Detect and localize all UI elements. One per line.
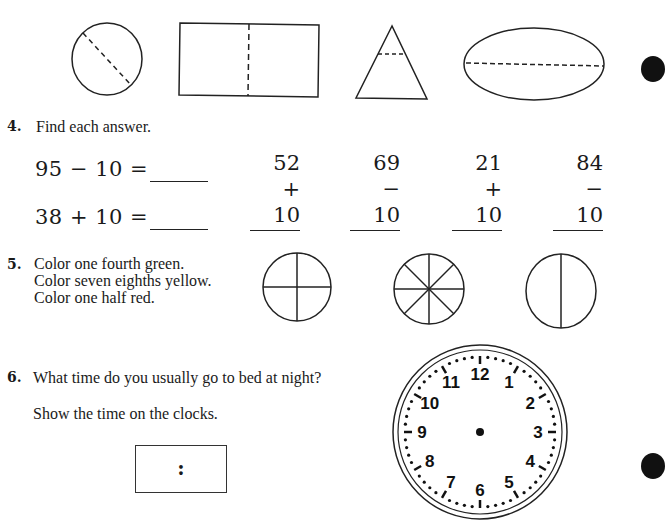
q4-v1-top: 52 — [250, 150, 300, 176]
q4-expr-2: 38 + 10 = — [35, 205, 148, 229]
q4-v2-bottom: − 10 — [350, 176, 400, 231]
clock-number-8: 8 — [425, 452, 434, 471]
q4-vertical-problem-3: 21 + 10 — [452, 150, 502, 231]
q4-expr-1: 95 − 10 = — [35, 157, 148, 181]
clock-center-dot — [476, 428, 484, 436]
triangle-shape — [356, 26, 427, 99]
q4-prompt: Find each answer. — [36, 118, 151, 135]
digital-clock-box[interactable]: : — [135, 445, 227, 493]
circle-fourths[interactable] — [263, 253, 331, 321]
analog-clock[interactable]: 121234567891011 — [380, 330, 580, 523]
clock-number-7: 7 — [446, 473, 455, 492]
clock-number-2: 2 — [525, 394, 534, 413]
q4-vertical-problem-1: 52 + 10 — [250, 150, 300, 231]
circle-eighths[interactable] — [394, 254, 464, 324]
circle-shape — [72, 23, 142, 95]
q6-prompt: What time do you usually go to bed at ni… — [33, 369, 321, 386]
clock-number-12: 12 — [471, 365, 490, 384]
q4-v3-bottom: + 10 — [452, 176, 502, 231]
q4-v2-top: 69 — [350, 150, 400, 176]
clock-number-5: 5 — [504, 473, 513, 492]
q6-instruction: Show the time on the clocks. — [33, 405, 218, 422]
q5-number: 5. — [7, 256, 22, 272]
q4-v4-bottom: − 10 — [553, 176, 603, 231]
q5-line-2: Color seven eighths yellow. — [34, 272, 212, 289]
clock-number-9: 9 — [417, 423, 426, 442]
clock-number-11: 11 — [442, 373, 460, 392]
fold-shapes — [0, 0, 650, 110]
q4-vertical-problem-2: 69 − 10 — [350, 150, 400, 231]
clock-number-6: 6 — [475, 481, 484, 500]
clock-number-1: 1 — [504, 373, 513, 392]
q4-v1-bottom: + 10 — [250, 176, 300, 231]
clock-number-10: 10 — [420, 394, 439, 413]
q4-answer-blank-1[interactable] — [150, 181, 208, 182]
time-separator: : — [177, 456, 184, 480]
q4-answer-blank-2[interactable] — [150, 229, 208, 230]
q4-vertical-problem-4: 84 − 10 — [553, 150, 603, 231]
fraction-circles — [250, 240, 650, 340]
ellipse-shape — [464, 28, 604, 100]
q4-v3-top: 21 — [452, 150, 502, 176]
binder-hole-top — [641, 56, 665, 82]
clock-number-3: 3 — [533, 423, 542, 442]
q4-number: 4. — [7, 118, 22, 134]
q5-line-3: Color one half red. — [34, 289, 155, 306]
binder-hole-bottom — [641, 453, 665, 479]
circle-halves[interactable] — [526, 254, 596, 328]
q4-v4-top: 84 — [553, 150, 603, 176]
q5-line-1: Color one fourth green. — [34, 255, 184, 272]
rectangle-shape — [179, 23, 319, 97]
clock-number-4: 4 — [525, 452, 535, 471]
q6-number: 6. — [7, 369, 22, 385]
